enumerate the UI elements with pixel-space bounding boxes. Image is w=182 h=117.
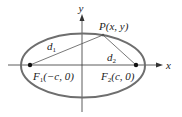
x-axis-label: x	[165, 59, 171, 71]
point-p-label: P(x, y)	[98, 20, 129, 33]
y-axis-label: y	[78, 2, 84, 14]
d1-segment	[30, 35, 103, 65]
focus-f2-label: F2(c, 0)	[100, 70, 135, 84]
d2-label: d2	[107, 51, 117, 65]
focus-f1-dot	[28, 63, 32, 67]
ellipse-diagram: y x P(x, y) d1 d2 F1(−c, 0) F2(c, 0)	[0, 0, 182, 117]
point-p-dot	[102, 34, 105, 37]
focus-f1-label: F1(−c, 0)	[32, 70, 74, 84]
x-axis-arrow-icon	[156, 63, 163, 68]
y-axis-arrow-icon	[80, 14, 85, 21]
focus-f2-dot	[134, 63, 138, 67]
d1-label: d1	[47, 40, 57, 54]
